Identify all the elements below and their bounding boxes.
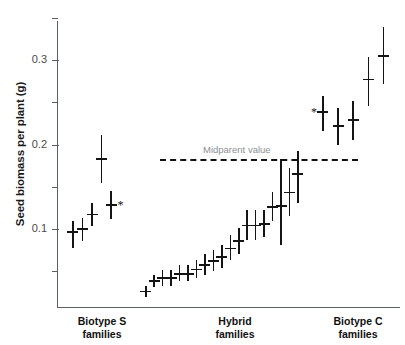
mean-marker (87, 214, 98, 216)
midparent-value-line (160, 159, 358, 161)
significance-star-biotype-c: * (311, 106, 317, 118)
mean-marker (259, 223, 270, 225)
mean-marker (250, 225, 261, 227)
error-bar (72, 221, 74, 247)
x-axis-group-label-1: Biotype Sfamilies (62, 315, 142, 341)
mean-marker (149, 280, 160, 282)
mean-marker (183, 273, 194, 275)
mean-marker (348, 119, 359, 121)
mean-marker (208, 260, 219, 262)
mean-marker (166, 277, 177, 279)
group-label-line-1: Biotype S (62, 315, 142, 328)
y-axis-minor-tick (52, 271, 58, 272)
error-bar (280, 159, 282, 245)
mean-marker (140, 291, 151, 293)
y-axis-minor-tick (52, 102, 58, 103)
x-axis-group-label-2: Hybridfamilies (195, 315, 275, 341)
mean-marker (67, 231, 78, 233)
group-label-line-2: families (318, 328, 398, 341)
y-axis-major-tick (52, 145, 59, 146)
error-bar (337, 108, 339, 145)
mean-marker (77, 228, 88, 230)
mean-marker (363, 79, 374, 81)
mean-marker (233, 240, 244, 242)
y-axis-minor-tick (52, 187, 58, 188)
y-axis-tick-label: 0.1 (7, 222, 47, 234)
y-axis-tick-label: 0.3 (7, 53, 47, 65)
significance-star-biotype-s: * (117, 199, 123, 211)
group-label-line-2: families (195, 328, 275, 341)
group-label-line-1: Biotype C (318, 315, 398, 328)
x-axis-group-label-3: Biotype Cfamilies (318, 315, 398, 341)
y-axis-major-tick (52, 60, 59, 61)
x-axis-line (57, 307, 400, 308)
mean-marker (276, 205, 287, 207)
mean-marker (225, 248, 236, 250)
group-label-line-2: families (62, 328, 142, 341)
y-axis-tick-label: 0.2 (7, 138, 47, 150)
group-label-line-1: Hybrid (195, 315, 275, 328)
y-axis-major-tick (52, 229, 59, 230)
mean-marker (96, 158, 107, 160)
mean-marker (378, 55, 389, 57)
mean-marker (333, 125, 344, 127)
y-axis-line (57, 21, 58, 307)
mean-marker (199, 264, 210, 266)
mean-marker (106, 204, 117, 206)
mean-marker (284, 192, 295, 194)
mean-marker (216, 256, 227, 258)
mean-marker (292, 173, 303, 175)
mean-marker (191, 269, 202, 271)
error-bar (322, 96, 324, 131)
mean-marker (317, 111, 328, 113)
y-axis-minor-tick (52, 18, 58, 19)
error-bar (368, 57, 370, 106)
chart-figure: Seed biomass per plant (g) 0.10.20.3 Bio… (0, 0, 405, 345)
midparent-value-label: Midparent value (203, 144, 271, 155)
